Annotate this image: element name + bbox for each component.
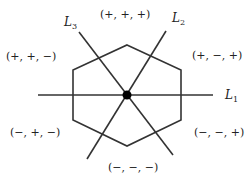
region-upper-left: (+, +, −) xyxy=(6,50,56,63)
label-l1: L1 xyxy=(224,88,238,104)
region-lower-right: (−, −, +) xyxy=(194,126,244,139)
center-dot xyxy=(123,91,132,100)
region-upper-right: (+, −, +) xyxy=(192,49,242,62)
label-l3: L3 xyxy=(63,15,77,31)
hexagon-diagram: L3 L2 L1 (+, +, +) (+, −, +) (+, +, −) (… xyxy=(0,0,247,179)
region-lower-left: (−, +, −) xyxy=(10,126,60,139)
region-top: (+, +, +) xyxy=(100,8,150,21)
label-l2: L2 xyxy=(171,11,185,27)
region-bottom: (−, −, −) xyxy=(108,161,158,174)
